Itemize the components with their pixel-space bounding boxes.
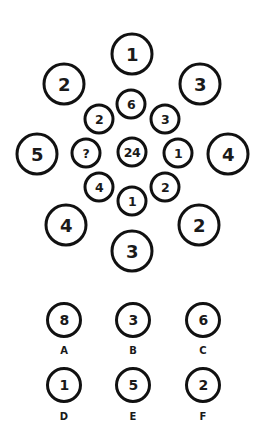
outer-circle-top: 1 [111, 33, 154, 76]
inner-circle-bottom: 1 [117, 186, 148, 217]
outer-circle-right: 4 [207, 133, 250, 176]
option-f-label: F [200, 411, 207, 422]
number-circle-puzzle: 1 3 4 2 3 4 5 2 6 3 1 2 1 4 ? 2 24 8 A 3… [0, 0, 262, 441]
inner-circle-bottom-right: 2 [150, 172, 181, 203]
option-a-label: A [60, 345, 68, 356]
outer-circle-left: 5 [16, 133, 59, 176]
center-circle: 24 [117, 137, 148, 168]
inner-circle-right: 1 [163, 138, 194, 169]
option-a-circle[interactable]: 8 [46, 302, 82, 338]
option-e-label: E [130, 411, 137, 422]
option-d-circle[interactable]: 1 [46, 367, 82, 403]
option-b-circle[interactable]: 3 [115, 302, 151, 338]
outer-circle-top-left: 2 [43, 63, 86, 106]
missing-value-circle: ? [71, 138, 102, 169]
outer-circle-bottom-left: 4 [45, 204, 88, 247]
outer-circle-bottom: 3 [111, 230, 154, 273]
option-c-circle[interactable]: 6 [185, 302, 221, 338]
option-d-label: D [60, 411, 68, 422]
inner-circle-top: 6 [116, 89, 147, 120]
option-f-circle[interactable]: 2 [185, 367, 221, 403]
outer-circle-bottom-right: 2 [178, 204, 221, 247]
option-e-circle[interactable]: 5 [115, 367, 151, 403]
inner-circle-bottom-left: 4 [84, 172, 115, 203]
outer-circle-top-right: 3 [179, 63, 222, 106]
option-b-label: B [129, 345, 137, 356]
inner-circle-top-right: 3 [150, 104, 181, 135]
option-c-label: C [199, 345, 206, 356]
inner-circle-top-left: 2 [84, 104, 115, 135]
